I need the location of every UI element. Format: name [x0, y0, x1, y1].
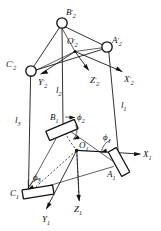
label-joint-C1: C1	[10, 188, 19, 200]
kinematic-diagram-figure: B′2 A′2 C′2 O′2 X′2 Y′2 Z′2 l1 l2 l3 B1 …	[0, 0, 161, 231]
edge-C2p-A2p	[36, 50, 102, 71]
label-axis-Z1: Z1	[74, 204, 82, 216]
axis-Y2p-arrowhead	[40, 70, 48, 75]
label-angle-phi2: ϕ2	[77, 112, 85, 124]
label-joint-A2p: A′2	[111, 35, 122, 47]
joint-C2p	[26, 66, 36, 76]
lower-coordinate-frame	[46, 151, 141, 210]
slider-block-B1	[46, 119, 78, 140]
axis-Z1-arrowhead	[76, 195, 80, 202]
label-link-l3: l3	[15, 115, 21, 127]
label-angle-phi3: ϕ3	[33, 172, 41, 184]
axis-X2p-arrowhead	[116, 66, 123, 71]
axis-X1-arrowhead	[134, 152, 141, 156]
joint-B2p	[57, 18, 67, 28]
diagram-canvas: B′2 A′2 C′2 O′2 X′2 Y′2 Z′2 l1 l2 l3 B1 …	[0, 0, 161, 231]
angle-pointer-phi2-arrowhead	[70, 115, 76, 119]
label-link-l2: l2	[56, 85, 62, 97]
label-axis-Z2p: Z′2	[90, 75, 99, 87]
slider-blocks	[22, 119, 130, 199]
upper-origin-dot	[74, 50, 77, 53]
axis-Z2p-arrowhead	[83, 64, 89, 71]
lower-platform-edges	[30, 131, 114, 191]
slider-block-C1	[22, 185, 54, 199]
label-origin-O1: O1	[79, 140, 89, 152]
label-axis-Y1: Y1	[42, 214, 50, 226]
joint-A2p	[102, 42, 112, 52]
upper-joint-circles	[26, 18, 112, 76]
upper-platform-edges	[34, 27, 104, 71]
label-joint-B2p: B′2	[66, 7, 76, 19]
label-link-l1: l1	[121, 100, 127, 112]
link-l3-line	[29, 76, 31, 187]
label-joint-B1: B1	[50, 112, 59, 124]
axis-Y1-arrowhead	[46, 202, 52, 209]
label-joint-A1: A1	[106, 169, 116, 181]
axis-Y1-line	[47, 151, 77, 209]
upper-origin-spokes	[36, 28, 102, 70]
label-axis-Y2p: Y′2	[38, 77, 47, 89]
label-angle-phi1: ϕ1	[103, 132, 111, 144]
label-axis-X1: X1	[142, 149, 152, 161]
label-axis-X2p: X′2	[123, 74, 134, 86]
axis-Z1-line	[77, 151, 79, 201]
label-joint-C2p: C′2	[6, 59, 16, 71]
link-l2-line	[62, 28, 63, 125]
